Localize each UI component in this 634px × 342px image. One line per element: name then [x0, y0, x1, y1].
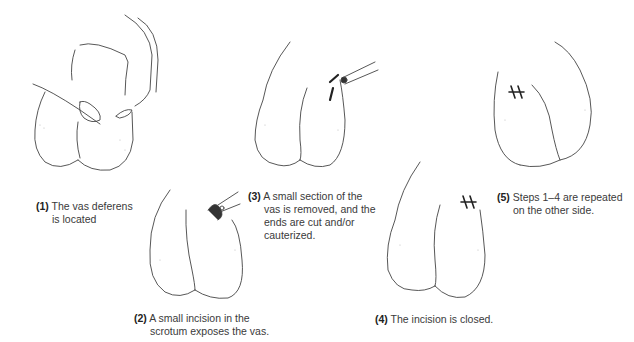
step2-caption: (2) A small incision in the scrotum expo…	[134, 312, 269, 338]
illustrations	[0, 0, 634, 342]
step2-illustration	[150, 190, 243, 298]
step2-text-line2: scrotum exposes the vas.	[134, 325, 269, 338]
step4-illustration	[387, 162, 485, 298]
step2-text-line1: A small incision in the	[149, 312, 249, 324]
step5-text-line1: Steps 1–4 are repeated	[513, 191, 623, 203]
step2-number: (2)	[134, 312, 147, 324]
step3-text-line4: cauterized.	[248, 229, 375, 242]
step3-caption: (3) A small section of the vas is remove…	[248, 190, 375, 242]
step4-number: (4)	[375, 313, 388, 325]
step3-text-line3: ends are cut and/or	[248, 216, 375, 229]
step3-number: (3)	[248, 190, 261, 202]
step5-text-line2: on the other side.	[497, 204, 623, 217]
step5-number: (5)	[497, 191, 510, 203]
step1-number: (1)	[36, 200, 49, 212]
step5-illustration	[494, 42, 591, 167]
step1-text-line1: The vas deferens	[52, 200, 133, 212]
step3-illustration	[255, 42, 378, 167]
step4-text-line1: The incision is closed.	[391, 313, 494, 325]
step5-caption: (5) Steps 1–4 are repeated on the other …	[497, 191, 623, 217]
step3-text-line1: A small section of the	[263, 190, 362, 202]
step4-caption: (4) The incision is closed.	[375, 313, 493, 326]
step1-caption: (1) The vas deferens is located	[36, 200, 133, 226]
step1-text-line2: is located	[36, 213, 133, 226]
step1-illustration	[33, 15, 158, 170]
step3-text-line2: vas is removed, and the	[248, 203, 375, 216]
